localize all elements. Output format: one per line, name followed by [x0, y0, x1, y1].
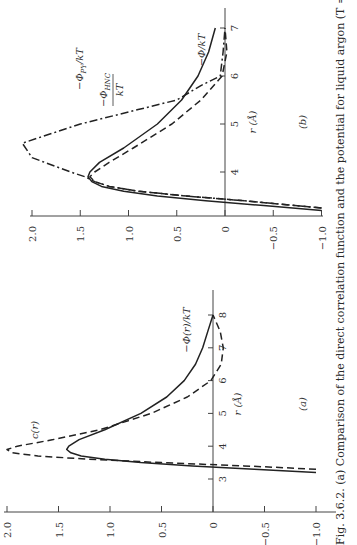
figure: 2.01.51.00.50−0.5−1.0 4567 r (Å) (b) −ΦP…: [0, 0, 357, 545]
r-tick-label: 3: [217, 476, 228, 482]
r-tick-label: 4: [217, 443, 228, 449]
r-tick-label: 8: [217, 312, 228, 318]
value-tick-label: 1.0: [124, 226, 135, 242]
r-axis-label-a: r (Å): [232, 392, 243, 415]
value-tick-label: −0.5: [268, 226, 279, 250]
value-tick-label: −1.0: [317, 226, 328, 250]
value-tick-label: 0: [208, 522, 219, 528]
label-c-r: c(r): [29, 421, 40, 439]
value-tick-label: 0.5: [172, 226, 183, 242]
curves-b: [22, 28, 321, 210]
panel-tag-a: (a): [297, 397, 308, 411]
curve-dash-dot: [22, 28, 321, 208]
panel-tag-b: (b): [297, 115, 308, 129]
panel-a-chart: 2.01.51.00.50−0.5−1.0 345678 r (Å) (a) c…: [2, 290, 336, 545]
value-tick-label: 1.5: [54, 522, 65, 538]
value-tick-label: 0.5: [157, 522, 168, 538]
value-tick-label: 1.5: [75, 226, 86, 242]
curve-dashed: [7, 315, 316, 469]
label-phi-b: −Φ/kT: [196, 32, 207, 66]
value-tick-label: 2.0: [2, 522, 13, 538]
r-tick-label: 5: [229, 121, 240, 127]
value-tick-label: 1.0: [105, 522, 116, 538]
label-phi-a: −Φ(r)/kT: [181, 306, 192, 353]
value-tick-label: −1.0: [311, 522, 322, 545]
figure-caption: Fig. 3.6.2. (a) Comparison of the direct…: [334, 0, 347, 545]
r-tick-label: 6: [217, 377, 228, 383]
r-tick-label: 4: [229, 169, 240, 175]
svg-text:−ΦPY/kT: −ΦPY/kT: [74, 47, 88, 90]
panel-b-chart: 2.01.51.00.50−0.5−1.0 4567 r (Å) (b) −ΦP…: [22, 8, 327, 250]
r-ticks-a: 345678: [208, 312, 228, 482]
label-phi-py: −ΦPY/kT: [74, 47, 88, 90]
value-tick-label: −0.5: [260, 522, 271, 545]
r-axis-label-b: r (Å): [247, 110, 258, 133]
curves-a: [7, 315, 316, 472]
value-tick-label: 2.0: [27, 226, 38, 242]
svg-text:kT: kT: [114, 82, 125, 96]
label-phi-hnc: −ΦHNC kT: [98, 72, 125, 107]
r-ticks-b: 4567: [220, 25, 240, 175]
svg-text:−ΦHNC: −ΦHNC: [98, 72, 112, 107]
r-tick-label: 7: [229, 25, 240, 31]
r-tick-label: 5: [217, 410, 228, 416]
r-tick-label: 6: [229, 73, 240, 79]
value-tick-label: 0: [220, 226, 231, 232]
